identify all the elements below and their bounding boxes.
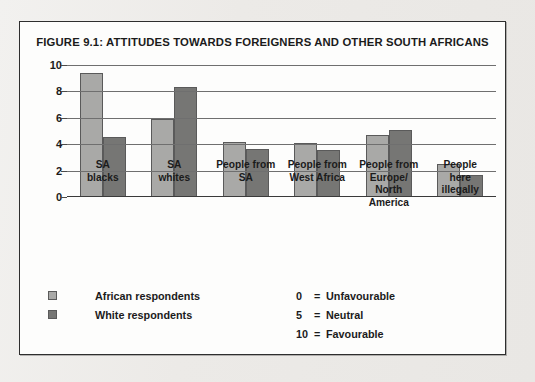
legend-item: African respondents: [48, 286, 200, 305]
y-axis-tick-label: 4: [32, 138, 62, 150]
y-axis-labels: 0246810: [32, 65, 62, 197]
scale-key-value: 0: [296, 290, 314, 302]
x-axis-label: Peoplehereillegally: [425, 159, 497, 209]
x-axis-label-line: here: [426, 172, 496, 185]
x-axis-label: SAwhites: [139, 159, 211, 209]
x-axis-label: People fromSA: [210, 159, 282, 209]
gridline: [67, 118, 496, 119]
scale-key: 0=Unfavourable5=Neutral10=Favourable: [296, 286, 395, 343]
chart-plot: 0246810: [20, 65, 507, 245]
figure-title: FIGURE 9.1: ATTITUDES TOWARDS FOREIGNERS…: [20, 36, 505, 48]
y-axis-tick: [61, 65, 67, 66]
y-axis-tick: [61, 144, 67, 145]
y-axis-tick: [61, 91, 67, 92]
scale-key-row: 5=Neutral: [296, 305, 395, 324]
x-axis-label-line: SA: [68, 159, 138, 172]
x-axis-label-line: whites: [140, 172, 210, 185]
x-axis-label-line: People: [426, 159, 496, 172]
scale-key-value: 5: [296, 309, 314, 321]
legend-swatch: [48, 310, 57, 319]
scale-key-row: 0=Unfavourable: [296, 286, 395, 305]
legend-swatch: [48, 291, 57, 300]
x-axis-label-line: SA: [211, 172, 281, 185]
gridline: [67, 65, 496, 66]
y-axis-tick-label: 0: [32, 191, 62, 203]
legend-label: African respondents: [95, 290, 200, 302]
x-axis-label: SAblacks: [67, 159, 139, 209]
scale-key-meaning: Favourable: [326, 328, 384, 340]
legend-label: White respondents: [95, 309, 192, 321]
y-axis-tick: [61, 118, 67, 119]
scale-key-value: 10: [296, 328, 314, 340]
scale-key-meaning: Neutral: [326, 309, 363, 321]
x-axis-label: People fromWest Africa: [282, 159, 354, 209]
x-axis-label-line: West Africa: [283, 172, 353, 185]
x-axis-label: People fromEurope/North America: [353, 159, 425, 209]
y-axis-tick-label: 6: [32, 112, 62, 124]
x-axis-label-line: Europe/: [354, 172, 424, 185]
x-axis-label-line: People from: [354, 159, 424, 172]
figure-panel: FIGURE 9.1: ATTITUDES TOWARDS FOREIGNERS…: [19, 21, 506, 355]
y-axis-tick-label: 8: [32, 85, 62, 97]
y-axis-tick-label: 2: [32, 165, 62, 177]
x-axis-label-line: People from: [283, 159, 353, 172]
x-axis-label-line: blacks: [68, 172, 138, 185]
x-axis-label-line: SA: [140, 159, 210, 172]
scale-key-equals: =: [314, 290, 326, 302]
chart-legend: African respondentsWhite respondents: [48, 286, 200, 324]
scale-key-row: 10=Favourable: [296, 324, 395, 343]
legend-item: White respondents: [48, 305, 200, 324]
scale-key-equals: =: [314, 328, 326, 340]
x-axis-label-line: illegally: [426, 184, 496, 197]
gridline: [67, 144, 496, 145]
gridline: [67, 91, 496, 92]
y-axis-tick-label: 10: [32, 59, 62, 71]
x-axis-label-line: People from: [211, 159, 281, 172]
scale-key-equals: =: [314, 309, 326, 321]
x-axis-labels: SAblacksSAwhitesPeople fromSAPeople from…: [67, 159, 496, 209]
scale-key-meaning: Unfavourable: [326, 290, 395, 302]
x-axis-label-line: North America: [354, 184, 424, 209]
